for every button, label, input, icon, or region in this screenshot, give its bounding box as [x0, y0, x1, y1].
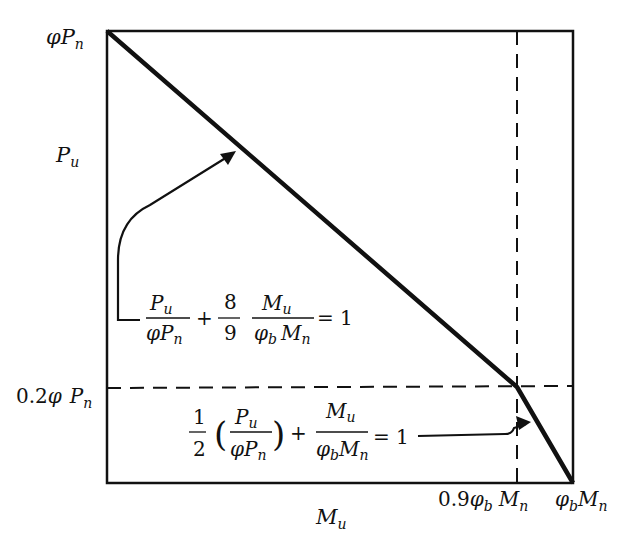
label-0.2phiPn: 0.2φPn: [16, 384, 92, 411]
svg-text:φbMn: φbMn: [254, 321, 311, 347]
svg-text:= 1: = 1: [373, 425, 409, 449]
label-phibMn: φbMn: [555, 487, 608, 514]
svg-text:Pu: Pu: [234, 405, 258, 431]
svg-text:): ): [272, 414, 285, 454]
svg-text:φPn: φPn: [146, 321, 183, 347]
svg-text:1: 1: [193, 405, 206, 429]
dashed-line-0.2phiPn: [107, 386, 573, 388]
svg-text:+: +: [196, 306, 213, 330]
svg-text:Mu: Mu: [261, 291, 292, 317]
svg-text:Pu: Pu: [149, 291, 173, 317]
equation-upper: Pu φPn + 8 9 Mu φbMn = 1: [146, 290, 353, 347]
svg-text:= 1: = 1: [317, 306, 353, 330]
label-0.9phibMn: 0.9φbMn: [438, 487, 528, 514]
label-Pu: Pu: [55, 143, 79, 170]
arrow-upper-equation: [118, 154, 232, 320]
svg-text:φPn: φPn: [230, 437, 267, 463]
arrow-head-icon: [220, 151, 236, 165]
arrow-head-icon: [516, 416, 531, 430]
svg-text:(: (: [214, 414, 227, 454]
interaction-diagram: φPn Pu 0.2φPn Mu 0.9φbMn φbMn Pu φPn + 8…: [0, 0, 626, 542]
svg-text:2: 2: [193, 437, 206, 461]
svg-text:+: +: [290, 421, 307, 445]
svg-text:Mu: Mu: [325, 399, 356, 425]
svg-text:8: 8: [224, 290, 237, 314]
equation-lower: 1 2 ( Pu φPn ) + Mu φbMn = 1: [189, 399, 409, 463]
svg-text:φbMn: φbMn: [316, 437, 369, 463]
label-Mu: Mu: [315, 505, 347, 532]
svg-text:9: 9: [224, 321, 237, 345]
arrow-lower-equation: [418, 424, 526, 436]
label-phi-Pn: φPn: [46, 25, 84, 52]
